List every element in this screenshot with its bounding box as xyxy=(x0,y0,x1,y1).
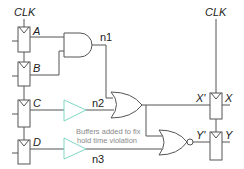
ff-c-label: C xyxy=(33,97,41,109)
n1-label: n1 xyxy=(100,31,112,43)
ff-y-output-label: Y xyxy=(225,129,233,141)
or-gate xyxy=(111,92,142,118)
flip-flop-y: Y' Y xyxy=(196,129,233,160)
clk-label-left: CLK xyxy=(14,6,36,18)
ff-x-input-label: X' xyxy=(195,92,206,104)
ff-b-label: B xyxy=(33,62,40,74)
n2-label: n2 xyxy=(92,97,104,109)
flip-flop-b: B xyxy=(12,51,64,86)
ff-x-output-label: X xyxy=(224,92,233,104)
clk-label-right: CLK xyxy=(205,6,227,18)
nor-gate xyxy=(159,130,187,155)
ff-d-label: D xyxy=(33,136,41,148)
annotation-line-1: Buffers added to fix xyxy=(76,127,141,136)
flip-flop-c: C xyxy=(12,97,64,127)
flip-flop-a: A xyxy=(12,25,64,52)
ff-y-input-label: Y' xyxy=(196,129,206,141)
buffer-c xyxy=(64,100,86,121)
ff-a-label: A xyxy=(32,25,40,37)
annotation-line-2: hold time violation xyxy=(77,136,137,145)
n1-wire xyxy=(92,45,113,98)
nor-bubble xyxy=(187,139,193,145)
flip-flop-d: D xyxy=(12,136,64,164)
circuit-diagram: CLK A B C D n1 n2 n3 xyxy=(0,0,244,169)
n3-label: n3 xyxy=(92,153,104,165)
and-gate xyxy=(64,33,92,57)
